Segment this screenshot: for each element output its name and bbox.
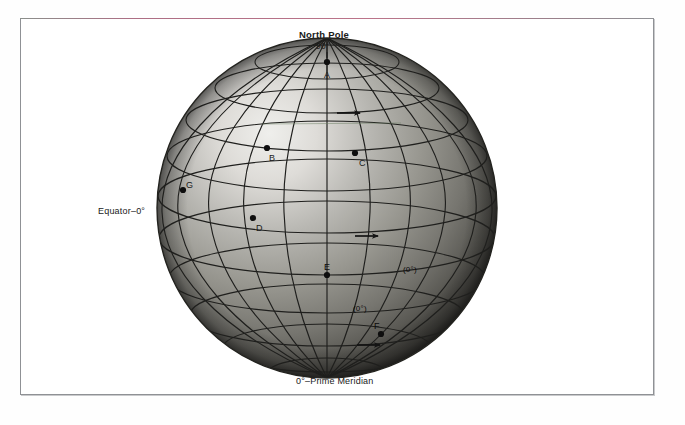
point-label-A: A [324,70,330,80]
globe-diagram-stage: North Pole 90° Equator–0° 0°–Prime Merid… [0,0,685,425]
point-marker-E [324,272,330,278]
label-meridian-inline-upper: (0°) [403,265,417,274]
label-equator: Equator–0° [98,206,145,216]
label-prime-meridian: 0°–Prime Meridian [296,376,374,386]
point-label-C: C [359,158,366,168]
point-label-F: F [374,321,380,331]
point-label-G: G [186,180,193,190]
point-marker-B [264,145,270,151]
label-north-pole-degrees: 90° [316,41,329,51]
label-north-pole: North Pole [299,29,349,40]
point-marker-C [352,150,358,156]
point-marker-F [378,331,384,337]
page-canvas: North Pole 90° Equator–0° 0°–Prime Merid… [0,0,685,425]
point-label-D: D [256,223,263,233]
point-marker-D [250,215,256,221]
point-marker-A [324,59,330,65]
point-label-B: B [269,153,275,163]
point-label-E: E [324,262,330,272]
label-meridian-inline-lower: (0°) [353,304,367,313]
